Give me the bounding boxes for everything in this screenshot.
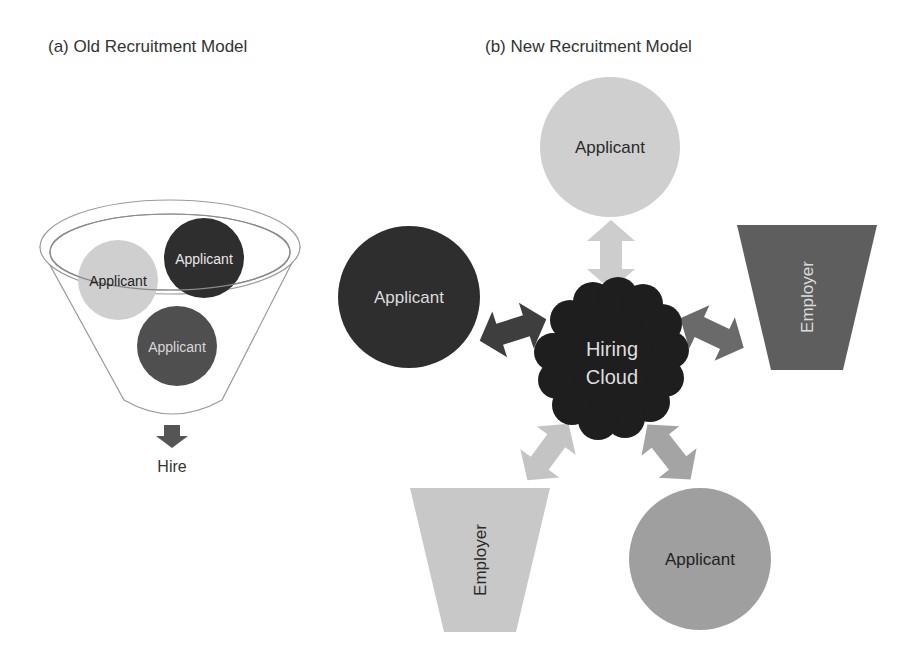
hire-label: Hire [157,458,186,475]
panel-a-title: (a) Old Recruitment Model [48,37,247,56]
top-applicant-label: Applicant [575,138,645,157]
hiring-cloud-label-line1: Hiring [586,338,638,360]
hiring-cloud-label-line2: Cloud [586,366,638,388]
bottom-left-employer-label: Employer [471,524,490,596]
down-arrow-icon [156,425,188,448]
funnel-applicant-label-3: Applicant [148,339,206,355]
panel-b-title: (b) New Recruitment Model [485,37,692,56]
diagram-canvas: (a) Old Recruitment Model Applicant Appl… [0,0,909,670]
bottom-right-applicant-label: Applicant [665,550,735,569]
funnel-applicant-label-1: Applicant [89,273,147,289]
funnel-applicant-label-2: Applicant [175,251,233,267]
right-employer-label: Employer [798,261,817,333]
left-applicant-label: Applicant [374,288,444,307]
